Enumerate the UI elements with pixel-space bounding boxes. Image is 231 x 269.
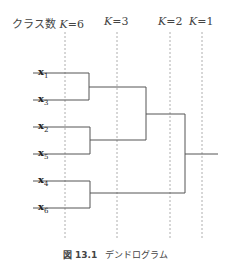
tree-branches	[33, 73, 218, 208]
cut-lines	[65, 32, 202, 238]
leaf-x5: x5	[38, 147, 48, 161]
leaf-x2: x2	[38, 120, 48, 134]
leaf-x1: x1	[38, 66, 48, 80]
leaf-x6: x6	[38, 201, 48, 215]
leaf-x3: x3	[38, 93, 48, 107]
figure-title: デンドログラム	[105, 250, 168, 260]
dendrogram	[0, 0, 231, 269]
figure-caption: 図 13.1デンドログラム	[0, 248, 231, 261]
branch-k3-merge	[89, 87, 146, 140]
branch-k2-merge	[90, 114, 185, 193]
figure-number: 図 13.1	[63, 250, 97, 260]
leaf-x4: x4	[38, 174, 48, 188]
